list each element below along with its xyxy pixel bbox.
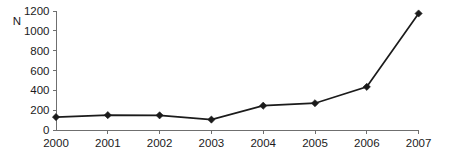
- y-tick-label: 1200: [24, 5, 50, 17]
- series-line: [56, 13, 419, 119]
- data-series: [52, 10, 422, 123]
- data-point-marker: [104, 112, 111, 119]
- y-axis-label: N: [13, 15, 21, 27]
- data-point-marker: [52, 114, 59, 121]
- x-tick-label: 2004: [250, 137, 276, 149]
- x-tick-label: 2000: [43, 137, 69, 149]
- chart-canvas: 020040060080010001200 200020012002200320…: [0, 0, 449, 159]
- x-tick-label: 2005: [302, 137, 328, 149]
- data-point-marker: [311, 100, 318, 107]
- data-point-marker: [208, 116, 215, 123]
- x-tick-label: 2001: [95, 137, 121, 149]
- y-axis: 020040060080010001200: [24, 5, 56, 136]
- data-point-marker: [260, 102, 267, 109]
- x-tick-label: 2003: [199, 137, 225, 149]
- line-chart: 020040060080010001200 200020012002200320…: [0, 0, 449, 159]
- x-tick-label: 2002: [147, 137, 173, 149]
- x-tick-label: 2007: [406, 137, 432, 149]
- x-tick-label: 2006: [354, 137, 380, 149]
- y-tick-label: 600: [30, 65, 49, 77]
- y-tick-label: 1000: [24, 25, 50, 37]
- y-tick-label: 800: [30, 45, 49, 57]
- y-tick-label: 200: [30, 104, 49, 116]
- y-tick-label: 400: [30, 84, 49, 96]
- x-axis: 20002001200220032004200520062007: [43, 130, 431, 149]
- data-point-marker: [156, 112, 163, 119]
- y-tick-label: 0: [43, 124, 49, 136]
